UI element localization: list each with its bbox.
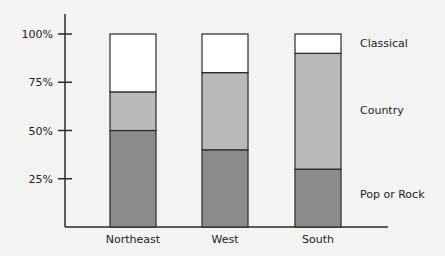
category-label: Northeast: [106, 233, 161, 246]
category-label: South: [302, 233, 334, 246]
category-label: West: [211, 233, 239, 246]
bar-segment-pop-or-rock: [202, 150, 248, 227]
bar-segment-classical: [110, 34, 156, 92]
bar-segment-country: [202, 73, 248, 150]
y-tick-label: 100%: [22, 28, 53, 41]
bar-segment-pop-or-rock: [295, 169, 341, 227]
y-tick-label: 50%: [29, 125, 53, 138]
bar-segment-classical: [295, 34, 341, 53]
y-tick-label: 75%: [29, 76, 53, 89]
y-tick-label: 25%: [29, 173, 53, 186]
legend-label: Pop or Rock: [360, 188, 425, 201]
bar-segment-country: [110, 92, 156, 131]
legend-label: Classical: [360, 37, 408, 50]
bar-segment-country: [295, 53, 341, 169]
stacked-bar-chart: 25%50%75%100%NortheastWestSouthPop or Ro…: [0, 0, 445, 256]
bar-segment-pop-or-rock: [110, 131, 156, 228]
bar-segment-classical: [202, 34, 248, 73]
legend-label: Country: [360, 104, 404, 117]
